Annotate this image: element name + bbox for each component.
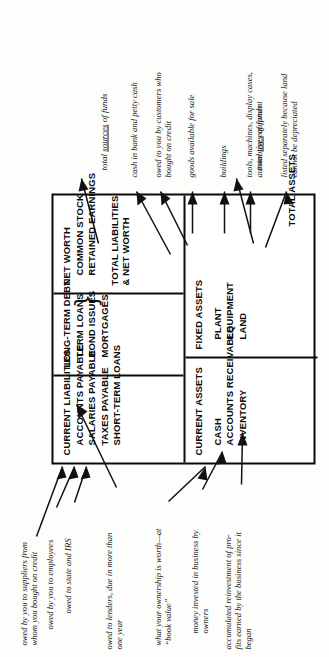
balance-sheet-page: CURRENT LIABILITIES ACCOUNTS PAYABLE SAL… [0,0,329,657]
arrow-accounts-payable [36,466,66,536]
arrow-land [265,191,293,247]
arrow-taxes-payable [74,466,90,502]
arrow-total-sources [78,178,98,243]
arrow-inventory [187,191,197,233]
arrow-long-term-debt [76,404,116,487]
diagram-canvas: CURRENT LIABILITIES ACCOUNTS PAYABLE SAL… [0,0,329,657]
arrow-net-worth [168,466,207,501]
arrow-retained-earnings [237,432,247,484]
arrow-equipment [245,191,255,233]
arrow-accounts-receivable [160,191,187,245]
arrow-plant [219,191,229,233]
arrow-overlay [0,0,329,657]
